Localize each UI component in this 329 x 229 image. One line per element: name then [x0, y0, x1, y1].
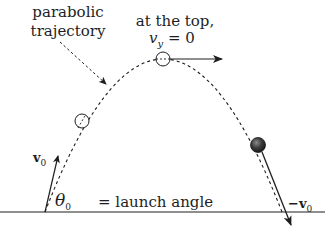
- neg-v0-subscript: 0: [306, 204, 312, 214]
- initial-velocity-label: v0: [33, 150, 46, 168]
- trajectory-pointer-arrow: [60, 42, 106, 84]
- v0-symbol: v: [33, 150, 41, 165]
- neg-v0-symbol: −v: [288, 196, 306, 211]
- v0-subscript: 0: [41, 158, 47, 168]
- vertical-velocity-label: vy = 0: [142, 29, 202, 53]
- vy-symbol: v: [149, 29, 157, 47]
- final-velocity-label: −v0: [288, 196, 312, 214]
- trajectory-label-line1: parabolic: [27, 3, 109, 22]
- top-position-circle: [156, 52, 170, 66]
- theta-label: θ0: [55, 190, 71, 212]
- final-velocity-arrow: [262, 152, 291, 225]
- launch-angle-label: = launch angle: [98, 193, 213, 211]
- theta-subscript: 0: [65, 202, 71, 212]
- trajectory-label-line2: trajectory: [27, 22, 109, 41]
- trajectory-label: parabolic trajectory: [27, 3, 109, 41]
- descending-ball: [251, 138, 266, 153]
- theta-symbol: θ: [55, 190, 65, 210]
- vy-value: = 0: [163, 29, 195, 47]
- projectile-diagram: parabolic trajectory at the top, vy = 0 …: [0, 0, 329, 229]
- trajectory-path: [45, 59, 282, 212]
